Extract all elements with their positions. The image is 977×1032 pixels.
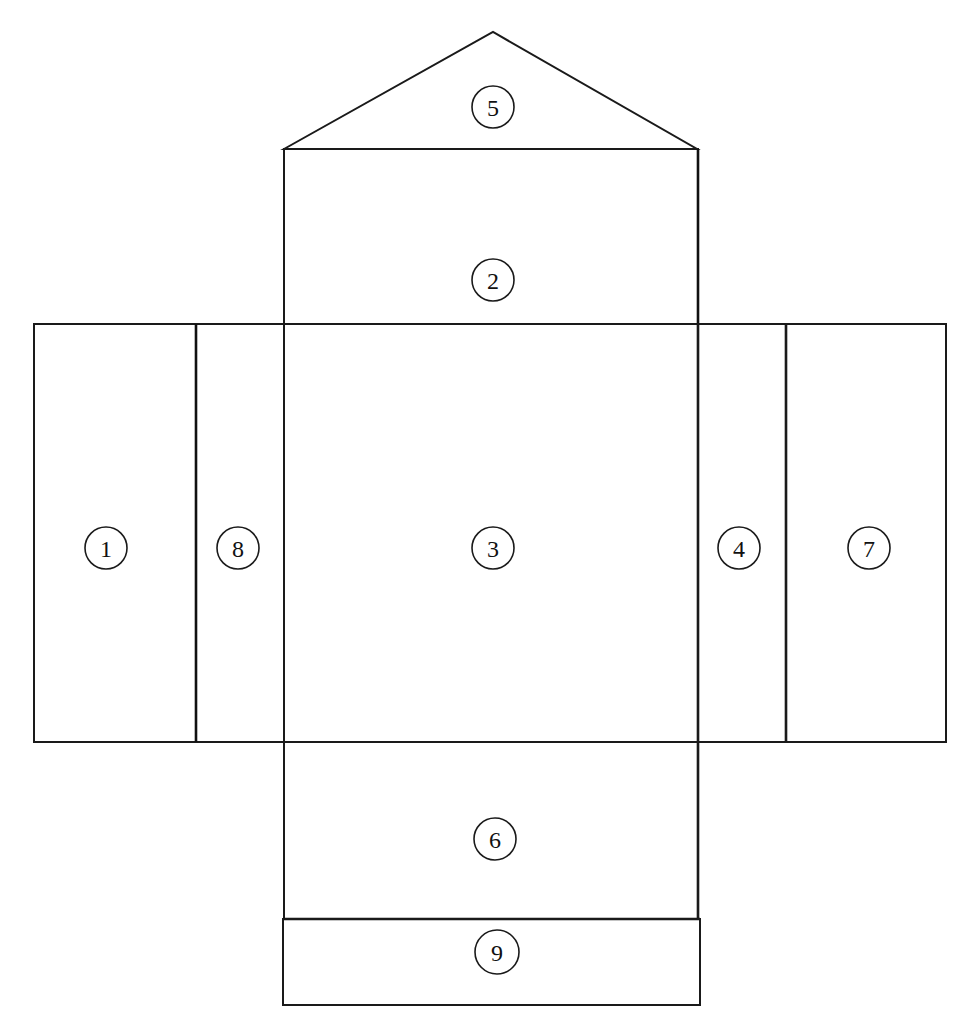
box-net-diagram: 5 2 1 8 3 4 7 6 9 [0,0,977,1032]
svg-text:3: 3 [487,536,499,562]
svg-text:9: 9 [491,940,503,966]
svg-text:4: 4 [733,536,745,562]
svg-text:2: 2 [487,268,499,294]
label-7: 7 [848,527,890,569]
label-3: 3 [472,527,514,569]
label-9: 9 [475,930,519,974]
svg-text:1: 1 [100,536,112,562]
label-5: 5 [472,86,514,128]
svg-text:7: 7 [863,536,875,562]
label-4: 4 [718,527,760,569]
label-1: 1 [85,527,127,569]
label-8: 8 [217,527,259,569]
svg-text:5: 5 [487,95,499,121]
svg-text:6: 6 [489,827,501,853]
svg-text:8: 8 [232,536,244,562]
label-6: 6 [474,818,516,860]
label-2: 2 [472,259,514,301]
